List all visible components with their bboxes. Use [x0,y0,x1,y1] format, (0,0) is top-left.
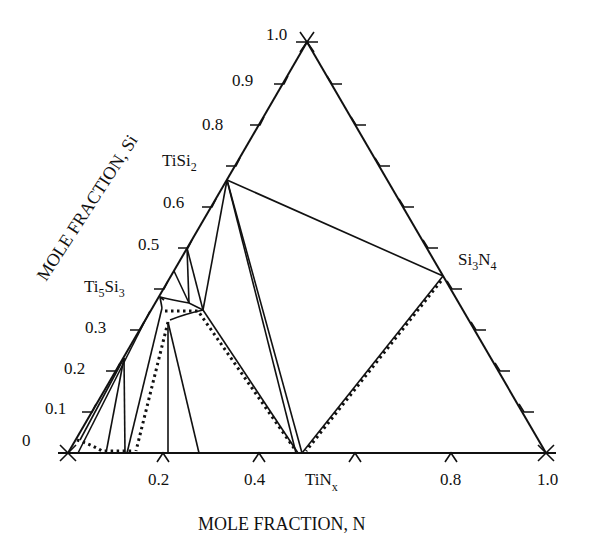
tick-label-0.5: 0.5 [138,235,159,254]
tick-label-0.9: 0.9 [232,71,253,90]
bottom-label-0.2: 0.2 [148,470,169,489]
tick-label-1.0-top: 1.0 [266,25,287,44]
tick-label-0.3: 0.3 [85,318,106,337]
tick-label-0.8: 0.8 [202,115,223,134]
right-axis-ticks [327,76,534,412]
tick-label-0.2: 0.2 [64,359,85,378]
y-axis-title: MOLE FRACTION, Si [33,131,142,284]
bottom-label-0.4: 0.4 [244,470,266,489]
triangle-frame [58,42,556,453]
tie-lines [78,180,443,453]
right-edge [307,42,546,453]
phase-label-tinx: TiNx [305,470,338,494]
tick-label-0.6: 0.6 [163,193,184,212]
x-axis-title: MOLE FRACTION, N [198,514,366,534]
ternary-diagram: 0 0.1 0.2 0.3 0.5 0.6 0.8 0.9 1.0 0.2 0.… [0,0,590,549]
bottom-axis-ticks [157,453,457,462]
bottom-label-1.0: 1.0 [537,470,558,489]
vertex-marks [60,32,554,461]
tick-label-0.1: 0.1 [45,399,66,418]
bottom-axis-labels: 0.2 0.4 0.8 1.0 [148,470,558,489]
phase-label-tisi2: TiSi2 [162,151,197,174]
bottom-label-0.8: 0.8 [440,470,461,489]
phase-label-ti5si3: Ti5Si3 [84,277,125,300]
phase-label-si3n4: Si3N4 [458,250,496,273]
tick-label-0: 0 [22,431,31,450]
